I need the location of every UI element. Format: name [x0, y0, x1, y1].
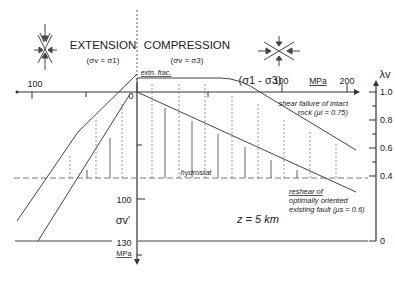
lambda-axis-label: λv [380, 68, 392, 80]
extension-condition: (σv = σ1) [87, 56, 120, 65]
reshear-label-line3: existing fault (μs = 0.6) [289, 205, 365, 214]
x-axis-unit: MPa [309, 76, 327, 86]
x-tick-label-right-200: 200 [339, 76, 354, 86]
stress-diagram: EXTENSION (σv = σ1) COMPRESSION (σv = σ3… [0, 0, 395, 281]
compression-condition: (σv = σ3) [171, 56, 204, 65]
lambda-axis-arrow [373, 80, 379, 86]
lambda-tick-0.4: 0.4 [380, 171, 393, 181]
x-tick-label-left-100: 100 [27, 79, 42, 89]
compression-stress-icon [258, 36, 300, 66]
y-tick-label-100: 100 [116, 195, 131, 205]
extension-stress-icon [34, 24, 57, 70]
hydrostat-label: hydrostat [181, 168, 213, 177]
lambda-tick-0: 0 [380, 236, 385, 246]
extension-title: EXTENSION [70, 39, 136, 51]
reshear-solid-verticals [87, 108, 297, 178]
y-axis-arrow [134, 259, 140, 265]
extn-frac-label: extn. frac. [141, 69, 172, 76]
reshear-label-line1: reshear of [289, 187, 324, 196]
x-axis-label: (σ1 - σ3) [239, 74, 282, 86]
depth-label: z = 5 km [236, 213, 279, 225]
y-axis-label: σv' [116, 214, 130, 226]
x-axis-arrow [354, 89, 360, 95]
compression-title: COMPRESSION [144, 39, 230, 51]
lambda-tick-0.6: 0.6 [380, 143, 393, 153]
lambda-tick-0.8: 0.8 [380, 115, 393, 125]
shear-failure-label-line1: shear failure of intact [278, 99, 349, 108]
lambda-ticks [369, 92, 376, 241]
reshear-label-line2: optimally oriented [289, 196, 349, 205]
x-axis-end-dot [16, 91, 19, 94]
lambda-tick-1.0: 1.0 [380, 87, 393, 97]
shear-failure-label-line2: rock (μi = 0.75) [298, 108, 349, 117]
y-tick-label-130: 130 [116, 238, 131, 248]
y-axis-unit: MPa [116, 249, 132, 258]
